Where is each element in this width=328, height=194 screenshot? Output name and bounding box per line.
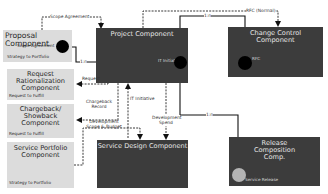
request-rationalization-title: Request Rationalization Component xyxy=(15,71,66,92)
flow-label-dev-spend: Development Spend xyxy=(152,115,180,126)
service-portfolio-stream: Strategy to Portfolio xyxy=(9,180,51,185)
chargeback-component[interactable]: Chargeback/ Showback Component Request t… xyxy=(7,104,74,138)
flow-label-it-initiative: IT Initiative xyxy=(130,97,155,101)
change-control-title: Change Control Component xyxy=(248,30,303,44)
chargeback-stream: Request to Fulfill xyxy=(9,131,44,136)
service-portfolio-title: Service Portfolio Component xyxy=(11,145,70,159)
release-composition-title: Release Composition Comp. xyxy=(247,140,302,161)
service-portfolio-component[interactable]: Service Portfolio Component Strategy to … xyxy=(7,142,74,188)
flow-label-request: Request xyxy=(82,77,100,81)
change-control-port-icon xyxy=(238,56,252,70)
project-port-icon xyxy=(174,56,187,69)
service-design-title: Service Design Component xyxy=(97,143,188,150)
chargeback-title: Chargeback/ Showback Component xyxy=(17,106,64,127)
release-composition-port-icon xyxy=(232,168,246,182)
flow-label-chargeback-record: Chargeback Record xyxy=(85,99,113,110)
proposal-port-icon xyxy=(56,40,69,53)
flow-label-1n-proposal: 1:n xyxy=(80,60,87,64)
project-title: Project Component xyxy=(96,31,188,38)
flow-label-1n-release: 1:n xyxy=(206,113,213,117)
project-component[interactable]: Project Component IT Initiative xyxy=(96,28,188,83)
flow-label-scope-agreement: Scope Agreement xyxy=(50,15,89,19)
flow-label-rfc-normal: RFC (Normal) xyxy=(246,9,275,13)
change-control-port-label: RFC xyxy=(252,56,260,61)
request-rationalization-stream: Request to Fulfill xyxy=(9,93,44,98)
proposal-port-label: Scope Agreement xyxy=(17,43,54,48)
service-design-component[interactable]: Service Design Component xyxy=(97,140,188,188)
proposal-stream: Strategy to Portfolio xyxy=(7,54,49,59)
flow-label-1n-change: 1:n xyxy=(204,14,211,18)
flow-label-dev-scope-budget: Development Scope & Budget xyxy=(83,119,125,130)
request-rationalization-component[interactable]: Request Rationalization Component Reques… xyxy=(7,69,74,100)
release-composition-port-label: Service Release xyxy=(245,177,278,182)
